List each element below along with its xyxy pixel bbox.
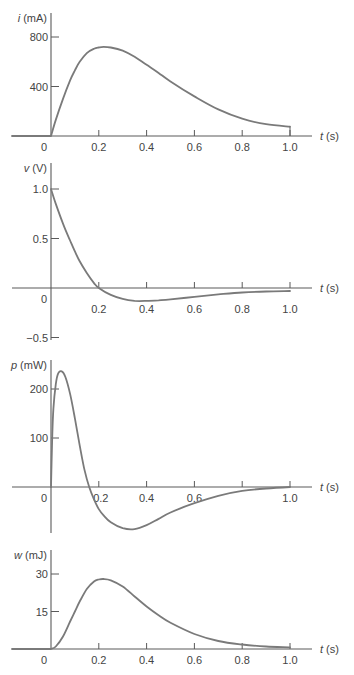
x-tick-label: 0.6 — [187, 141, 202, 153]
x-tick-label: 0.4 — [139, 303, 154, 315]
x-tick-label: 0 — [41, 654, 47, 666]
data-curve — [12, 47, 290, 136]
x-tick-label: 0.8 — [235, 141, 250, 153]
y-tick-label: 30 — [36, 568, 48, 580]
x-tick-label: 1.0 — [282, 654, 297, 666]
y-tick-label: 1.0 — [33, 183, 48, 195]
x-tick-label: 0 — [41, 141, 47, 153]
x-tick-label: 0.8 — [235, 303, 250, 315]
chart-energy: 00.20.40.60.81.0t (s)1530w (mJ) — [12, 549, 339, 666]
y-axis-label: p (mW) — [10, 359, 47, 371]
x-tick-label: 0.2 — [91, 141, 106, 153]
x-tick-label: 0.8 — [235, 654, 250, 666]
x-tick-label: 0.2 — [91, 654, 106, 666]
x-axis-label: t (s) — [320, 481, 339, 493]
x-tick-label: 0 — [41, 293, 47, 305]
y-tick-label: −0.5 — [26, 332, 48, 344]
figure-stack: 00.20.40.60.81.0t (s)400800i (mA) 00.20.… — [0, 0, 354, 675]
x-tick-label: 0.6 — [187, 303, 202, 315]
chart-current: 00.20.40.60.81.0t (s)400800i (mA) — [12, 12, 339, 153]
data-curve — [12, 579, 290, 649]
x-tick-label: 1.0 — [282, 303, 297, 315]
data-curve — [51, 371, 290, 529]
y-axis-label: i (mA) — [18, 12, 47, 24]
x-tick-label: 0.2 — [91, 303, 106, 315]
y-tick-label: 200 — [30, 383, 48, 395]
x-tick-label: 0.6 — [187, 654, 202, 666]
y-tick-label: 400 — [30, 81, 48, 93]
y-tick-label: 0.5 — [33, 233, 48, 245]
y-tick-label: 100 — [30, 432, 48, 444]
chart-voltage: 00.20.40.60.81.0t (s)−0.50.51.0v (V) — [12, 162, 339, 344]
x-tick-label: 0.4 — [139, 492, 154, 504]
data-curve — [51, 189, 290, 301]
x-tick-label: 0 — [41, 492, 47, 504]
x-axis-label: t (s) — [320, 130, 339, 142]
x-axis-label: t (s) — [320, 643, 339, 655]
y-tick-label: 15 — [36, 606, 48, 618]
x-tick-label: 1.0 — [282, 141, 297, 153]
x-tick-label: 0.4 — [139, 654, 154, 666]
chart-power: 00.20.40.61.0t (s)100200p (mW) — [10, 359, 339, 533]
x-tick-label: 0.4 — [139, 141, 154, 153]
y-axis-label: w (mJ) — [14, 549, 47, 561]
x-axis-label: t (s) — [320, 282, 339, 294]
x-tick-label: 1.0 — [282, 492, 297, 504]
y-axis-label: v (V) — [24, 162, 47, 174]
y-tick-label: 800 — [30, 31, 48, 43]
